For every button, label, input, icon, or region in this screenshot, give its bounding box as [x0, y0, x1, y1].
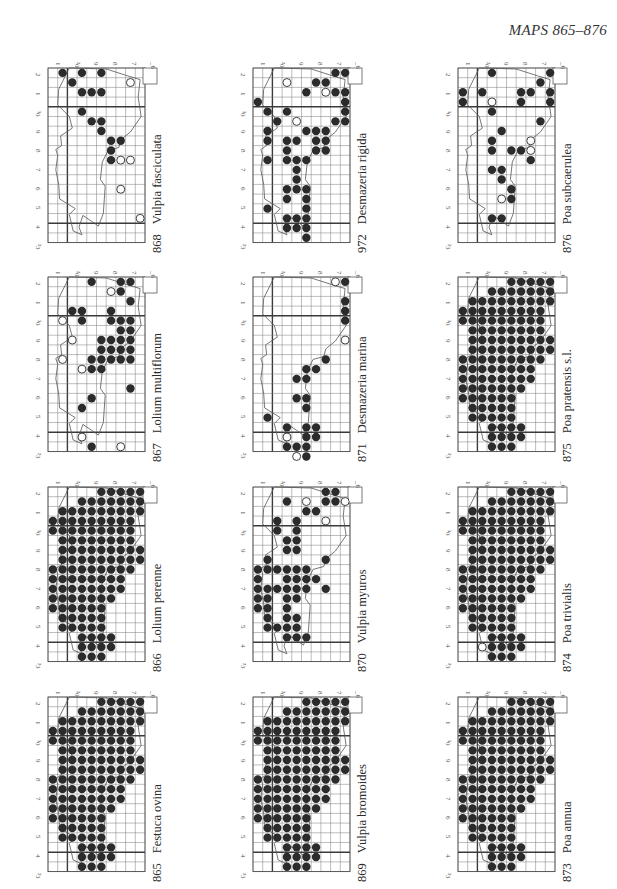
record-dot	[302, 575, 310, 583]
record-dot	[331, 775, 339, 783]
svg-text:²0: ²0	[73, 62, 81, 68]
svg-text:8: 8	[239, 568, 247, 572]
svg-text:²3: ²3	[239, 663, 247, 669]
record-dot	[273, 565, 281, 573]
record-dot	[68, 623, 76, 631]
record-dot	[488, 633, 496, 641]
record-dot	[68, 556, 76, 564]
record-dot	[68, 546, 76, 554]
record-dot	[283, 804, 291, 812]
record-dot	[283, 536, 291, 544]
record-dot	[58, 623, 66, 631]
record-dot	[312, 698, 320, 706]
record-dot	[87, 394, 95, 402]
record-dot	[117, 316, 125, 324]
svg-text:1: 1	[34, 721, 42, 725]
old-record-circle	[78, 365, 86, 373]
record-dot	[497, 404, 505, 412]
record-dot	[283, 497, 291, 505]
record-dot	[136, 546, 144, 554]
record-dot	[497, 526, 505, 534]
record-dot	[536, 346, 544, 354]
record-dot	[78, 69, 86, 77]
record-dot	[292, 814, 300, 822]
record-dot	[331, 497, 339, 505]
record-dot	[263, 814, 271, 822]
record-dot	[488, 556, 496, 564]
record-dot	[497, 707, 505, 715]
map-866: 21³0987654²31²0987_6866Lolium perenne	[28, 472, 218, 682]
record-dot	[478, 316, 486, 324]
record-dot	[468, 297, 476, 305]
record-dot	[507, 756, 515, 764]
record-dot	[78, 585, 86, 593]
record-dot	[322, 698, 330, 706]
record-dot	[136, 707, 144, 715]
record-dot	[263, 594, 271, 602]
record-dot	[527, 365, 535, 373]
svg-text:7: 7	[34, 377, 42, 381]
record-dot	[78, 804, 86, 812]
record-dot	[468, 413, 476, 421]
svg-text:9: 9	[444, 339, 452, 343]
record-dot	[468, 717, 476, 725]
record-dot	[507, 307, 515, 315]
record-dot	[341, 707, 349, 715]
svg-text:²0: ²0	[483, 271, 491, 277]
record-dot	[117, 746, 125, 754]
record-dot	[263, 107, 271, 115]
record-dot	[459, 307, 467, 315]
record-dot	[126, 727, 134, 735]
old-record-circle	[322, 88, 330, 96]
record-dot	[302, 375, 310, 383]
record-dot	[536, 536, 544, 544]
record-dot	[68, 78, 76, 86]
record-dot	[312, 365, 320, 373]
record-dot	[312, 707, 320, 715]
record-dot	[283, 107, 291, 115]
record-dot	[283, 795, 291, 803]
record-dot	[478, 556, 486, 564]
record-dot	[87, 633, 95, 641]
record-dot	[468, 326, 476, 334]
record-dot	[78, 775, 86, 783]
record-dot	[58, 775, 66, 783]
record-dot	[292, 565, 300, 573]
record-dot	[107, 643, 115, 651]
svg-text:³0: ³0	[444, 111, 452, 117]
svg-text:³0: ³0	[239, 530, 247, 536]
distribution-map: 21³0987654²31²0987_6	[28, 682, 165, 887]
record-dot	[292, 166, 300, 174]
record-dot	[488, 766, 496, 774]
record-dot	[87, 853, 95, 861]
record-dot	[263, 204, 271, 212]
record-dot	[58, 69, 66, 77]
record-dot	[488, 546, 496, 554]
svg-text:7: 7	[34, 587, 42, 591]
record-dot	[263, 623, 271, 631]
record-dot	[341, 107, 349, 115]
record-dot	[468, 346, 476, 354]
record-dot	[78, 643, 86, 651]
record-dot	[478, 736, 486, 744]
svg-text:²0: ²0	[73, 691, 81, 697]
distribution-map: 21³0987654²31²0987_6	[28, 262, 165, 467]
record-dot	[488, 804, 496, 812]
svg-text:1: 1	[239, 511, 247, 515]
record-dot	[292, 536, 300, 544]
old-record-circle	[478, 643, 486, 651]
record-dot	[283, 707, 291, 715]
record-dot	[507, 355, 515, 363]
record-dot	[117, 766, 125, 774]
record-dot	[497, 775, 505, 783]
record-dot	[97, 336, 105, 344]
record-dot	[527, 698, 535, 706]
record-dot	[527, 497, 535, 505]
record-dot	[78, 814, 86, 822]
record-dot	[263, 585, 271, 593]
svg-text:9: 9	[444, 549, 452, 553]
record-dot	[546, 98, 554, 106]
svg-text:8: 8	[34, 358, 42, 362]
svg-text:²0: ²0	[73, 481, 81, 487]
svg-text:1: 1	[239, 92, 247, 96]
